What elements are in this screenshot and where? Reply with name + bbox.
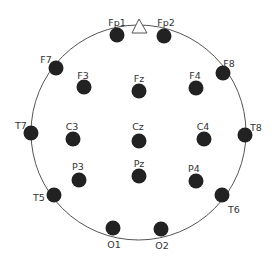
electrode-label: C4: [197, 121, 210, 132]
electrode-dot: [132, 134, 147, 149]
electrode-dot: [47, 188, 62, 203]
electrode-label: F3: [77, 70, 89, 81]
electrode-p4: P4: [188, 163, 203, 189]
electrode-dot: [110, 28, 125, 43]
electrode-label: F4: [189, 70, 201, 81]
electrode-fp1: Fp1: [108, 17, 126, 43]
electrode-t7: T7: [14, 120, 38, 141]
electrode-dot: [189, 81, 204, 96]
electrode-label: Fp1: [108, 17, 126, 28]
electrode-label: Cz: [132, 121, 144, 132]
electrode-group: Fp1Fp2F7F8F3FzF4T7C3CzC4T8P3PzP4T5T6O1O2: [14, 17, 262, 251]
electrode-label: O1: [107, 239, 121, 250]
electrode-t6: T6: [215, 188, 240, 215]
electrode-label: F8: [223, 58, 235, 69]
electrode-f3: F3: [77, 70, 92, 95]
electrode-dot: [189, 174, 204, 189]
head-outline: [31, 25, 246, 240]
electrode-t8: T8: [238, 122, 262, 143]
electrode-fz: Fz: [132, 73, 147, 99]
electrode-t5: T5: [32, 188, 61, 203]
electrode-label: P3: [72, 161, 84, 172]
electrode-c4: C4: [197, 121, 212, 147]
electrode-dot: [72, 173, 87, 188]
electrode-dot: [154, 222, 169, 237]
electrode-dot: [132, 84, 147, 99]
nose-marker: [132, 19, 147, 33]
electrode-dot: [66, 132, 81, 147]
electrode-label: O2: [155, 240, 169, 251]
electrode-c3: C3: [66, 121, 81, 147]
electrode-pz: Pz: [132, 158, 147, 184]
electrode-label: C3: [66, 121, 79, 132]
electrode-label: Pz: [134, 158, 145, 169]
electrode-cz: Cz: [132, 121, 147, 149]
electrode-dot: [77, 80, 92, 95]
electrode-dot: [106, 221, 121, 236]
electrode-label: Fz: [134, 73, 144, 84]
electrode-label: Fp2: [157, 17, 175, 28]
eeg-electrode-diagram: Fp1Fp2F7F8F3FzF4T7C3CzC4T8P3PzP4T5T6O1O2: [0, 0, 272, 261]
electrode-p3: P3: [72, 161, 87, 188]
electrode-dot: [157, 29, 172, 44]
electrode-label: F7: [40, 54, 52, 65]
electrode-f7: F7: [40, 54, 63, 76]
electrode-dot: [132, 169, 147, 184]
electrode-label: T7: [14, 120, 27, 131]
electrode-label: T6: [227, 204, 240, 215]
electrode-label: T5: [32, 192, 45, 203]
electrode-dot: [215, 188, 230, 203]
electrode-dot: [197, 132, 212, 147]
electrode-label: P4: [188, 163, 200, 174]
electrode-f4: F4: [189, 70, 204, 96]
electrode-label: T8: [249, 122, 262, 133]
